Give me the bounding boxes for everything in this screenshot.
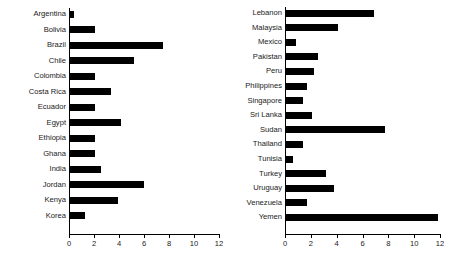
bar	[286, 214, 438, 221]
category-label: Malaysia	[224, 21, 282, 35]
bar	[70, 135, 95, 142]
category-label: Tunisia	[224, 152, 282, 166]
x-axis-tick	[388, 235, 389, 238]
category-label: Mexico	[224, 35, 282, 49]
x-axis-tick	[94, 235, 95, 238]
dual-bar-chart-figure: 024681012ArgentinaBoliviaBrazilChileColo…	[0, 0, 469, 261]
x-axis-tick	[311, 235, 312, 238]
category-label: Thailand	[224, 137, 282, 151]
bar	[70, 181, 144, 188]
bar	[70, 150, 95, 157]
bar	[70, 88, 111, 95]
x-axis-tick	[219, 235, 220, 238]
x-axis-tick-label: 4	[327, 239, 347, 248]
category-label: Ghana	[8, 147, 66, 161]
category-label: Peru	[224, 64, 282, 78]
x-axis-tick-label: 12	[209, 239, 229, 248]
x-axis-tick-label: 2	[301, 239, 321, 248]
x-axis-tick	[169, 235, 170, 238]
bar	[70, 11, 74, 18]
bar	[70, 57, 134, 64]
category-label: Ethiopia	[8, 131, 66, 145]
bar	[70, 26, 95, 33]
category-label: Turkey	[224, 167, 282, 181]
bar	[286, 39, 296, 46]
bar	[70, 197, 118, 204]
category-label: Sri Lanka	[224, 108, 282, 122]
bar	[70, 73, 95, 80]
bar	[70, 42, 163, 49]
bar	[286, 141, 303, 148]
x-axis-tick	[285, 235, 286, 238]
x-axis-tick-label: 6	[134, 239, 154, 248]
x-axis-tick-label: 6	[353, 239, 373, 248]
x-axis-tick-label: 10	[404, 239, 424, 248]
category-label: Philippines	[224, 79, 282, 93]
bar	[286, 170, 326, 177]
category-label: Bolivia	[8, 23, 66, 37]
plot-area-right: 024681012LebanonMalaysiaMexicoPakistanPe…	[235, 0, 469, 261]
x-axis-tick	[69, 235, 70, 238]
x-axis-tick	[144, 235, 145, 238]
bar	[286, 199, 307, 206]
bar	[286, 126, 385, 133]
x-axis-tick-label: 2	[84, 239, 104, 248]
category-label: Lebanon	[224, 6, 282, 20]
category-label: India	[8, 162, 66, 176]
category-label: Sudan	[224, 123, 282, 137]
x-axis-tick-label: 8	[378, 239, 398, 248]
x-axis-tick	[119, 235, 120, 238]
category-label: Colombia	[8, 69, 66, 83]
bar	[70, 119, 121, 126]
bar	[286, 112, 312, 119]
category-label: Kenya	[8, 193, 66, 207]
chart-panel-left: 024681012ArgentinaBoliviaBrazilChileColo…	[0, 0, 234, 261]
x-axis-tick	[440, 235, 441, 238]
category-label: Ecuador	[8, 100, 66, 114]
bar	[70, 166, 101, 173]
category-label: Chile	[8, 54, 66, 68]
bar	[286, 10, 374, 17]
bar	[286, 53, 318, 60]
bar	[286, 24, 338, 31]
x-axis-tick	[194, 235, 195, 238]
x-axis-tick-label: 8	[159, 239, 179, 248]
x-axis-tick-label: 4	[109, 239, 129, 248]
category-label: Venezuela	[224, 196, 282, 210]
bar	[286, 97, 303, 104]
bar	[70, 212, 85, 219]
category-label: Uruguay	[224, 181, 282, 195]
category-label: Costa Rica	[8, 85, 66, 99]
category-label: Singapore	[224, 94, 282, 108]
bar	[70, 104, 95, 111]
x-axis-tick	[337, 235, 338, 238]
x-axis-tick	[414, 235, 415, 238]
bar	[286, 83, 307, 90]
x-axis-tick	[363, 235, 364, 238]
category-label: Korea	[8, 209, 66, 223]
category-label: Jordan	[8, 178, 66, 192]
category-label: Pakistan	[224, 50, 282, 64]
x-axis-tick-label: 12	[430, 239, 450, 248]
category-label: Brazil	[8, 38, 66, 52]
bar	[286, 68, 314, 75]
bar	[286, 156, 293, 163]
bar	[286, 185, 334, 192]
x-axis-tick-label: 0	[275, 239, 295, 248]
x-axis-tick-label: 0	[59, 239, 79, 248]
category-label: Yemen	[224, 210, 282, 224]
x-axis-tick-label: 10	[184, 239, 204, 248]
category-label: Egypt	[8, 116, 66, 130]
plot-area-left: 024681012ArgentinaBoliviaBrazilChileColo…	[0, 0, 234, 261]
chart-panel-right: 024681012LebanonMalaysiaMexicoPakistanPe…	[235, 0, 469, 261]
category-label: Argentina	[8, 7, 66, 21]
